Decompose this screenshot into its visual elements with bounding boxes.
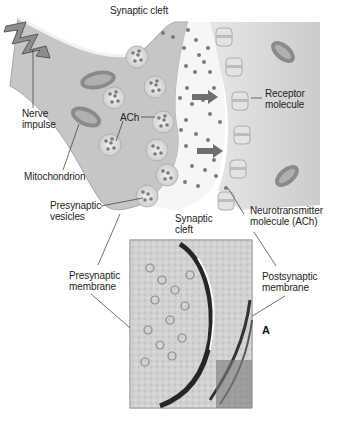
label-receptor-molecule: Receptor molecule — [265, 88, 305, 110]
label-neurotransmitter-molecule: Neurotransmitter molecule (ACh) — [250, 205, 323, 227]
synapse-diagram: Synaptic cleft Nerve impulse ACh Mitocho… — [0, 0, 337, 423]
label-synaptic-cleft-top: Synaptic cleft — [110, 5, 168, 16]
label-mitochondrion: Mitochondrion — [24, 171, 86, 182]
label-ach: ACh — [120, 112, 139, 123]
label-presynaptic-vesicles: Presynaptic vesicles — [50, 200, 101, 222]
label-presynaptic-membrane: Presynaptic membrane — [69, 270, 120, 292]
electron-micrograph — [130, 240, 252, 408]
label-nerve-impulse: Nerve impulse — [22, 108, 56, 130]
label-postsynaptic-membrane: Postsynaptic membrane — [262, 271, 318, 293]
label-synaptic-cleft-bottom: Synaptic cleft — [175, 213, 213, 235]
postsynaptic-cell — [210, 22, 320, 210]
panel-letter: A — [262, 324, 270, 336]
